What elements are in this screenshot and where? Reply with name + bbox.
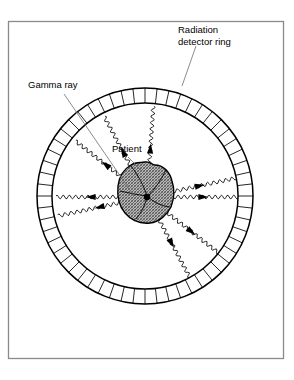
figure-root: Radiation detector ring Gamma ray Patien… bbox=[0, 0, 294, 380]
pet-scanner-diagram: Radiation detector ring Gamma ray Patien… bbox=[0, 0, 294, 380]
annihilation-point bbox=[144, 194, 150, 200]
patient-figure bbox=[118, 162, 174, 223]
label-gamma-ray: Gamma ray bbox=[28, 79, 78, 90]
label-detector-ring-line1: Radiation bbox=[178, 24, 218, 35]
label-detector-ring-line2: detector ring bbox=[178, 36, 231, 47]
label-patient: Patient bbox=[112, 143, 142, 154]
